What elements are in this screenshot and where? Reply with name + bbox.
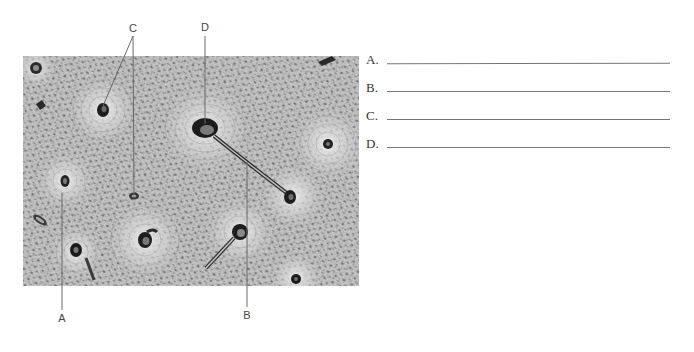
answer-key-c: C.: [366, 108, 378, 124]
callout-label-c: C: [129, 23, 137, 34]
micrograph-image: [18, 50, 364, 302]
answer-key-b: B.: [366, 80, 378, 96]
answer-blank-d[interactable]: [387, 147, 670, 148]
answer-blank-b[interactable]: [387, 91, 670, 92]
callout-label-b: B: [243, 310, 250, 321]
answer-blank-c[interactable]: [387, 119, 670, 120]
answer-key-d: D.: [366, 136, 379, 152]
callout-label-a: A: [58, 313, 65, 324]
answer-row-d: D.: [366, 136, 676, 164]
answer-blank-a[interactable]: [387, 63, 670, 64]
answer-row-a: A.: [366, 52, 676, 80]
callout-label-d: D: [201, 22, 209, 33]
answer-key-a: A.: [366, 52, 379, 68]
answer-list: A. B. C. D.: [366, 52, 676, 164]
answer-row-c: C.: [366, 108, 676, 136]
answer-row-b: B.: [366, 80, 676, 108]
